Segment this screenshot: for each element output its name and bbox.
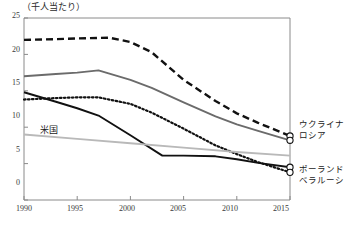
series-line-ロシア (24, 70, 290, 140)
series-line-ポーランド (24, 92, 290, 167)
line-chart: （千人当たり） 25 20 15 10 5 0 1990 1995 2000 2… (0, 0, 346, 228)
plot-area (0, 0, 346, 228)
series-line-ウクライナ (24, 38, 290, 136)
endpoint-marker-ベラルーシ (287, 169, 293, 175)
endpoint-marker-ロシア (287, 137, 293, 143)
